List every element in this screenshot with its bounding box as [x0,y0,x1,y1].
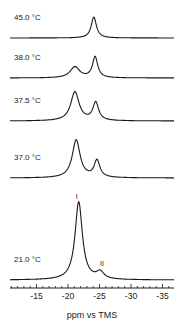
x-axis-label: ppm vs TMS [67,310,117,320]
temperature-label: 21.0 °C [14,255,41,264]
x-tick-label: -15 [30,291,43,301]
peak-annotation: II [100,260,104,267]
x-tick-label: -35 [156,291,169,301]
x-tick-label: -25 [93,291,106,301]
temperature-label: 37.5 °C [14,96,41,105]
temperature-label: 45.0 °C [14,13,41,22]
nmr-stacked-spectra-figure: 45.0 °C38.0 °C37.5 °C37.0 °C21.0 °C III … [0,0,185,325]
chart-canvas: 45.0 °C38.0 °C37.5 °C37.0 °C21.0 °C III … [0,0,185,325]
x-axis: -15-20-25-30-35 [10,284,174,301]
temperature-labels: 45.0 °C38.0 °C37.5 °C37.0 °C21.0 °C [14,13,41,264]
x-tick-label: -30 [125,291,138,301]
peak-annotations: III [76,193,104,267]
temperature-label: 38.0 °C [14,53,41,62]
spectrum-trace [10,202,174,280]
temperature-label: 37.0 °C [14,153,41,162]
peak-annotation: I [76,193,78,200]
x-tick-label: -20 [62,291,75,301]
